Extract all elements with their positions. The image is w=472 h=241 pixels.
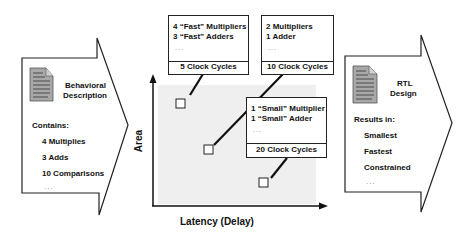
callout-line: 4 “Fast” Multipliers bbox=[173, 22, 246, 31]
y-axis-label: Area bbox=[134, 130, 144, 152]
x-axis-label: Latency (Delay) bbox=[180, 217, 254, 227]
callout-ellipsis: ... bbox=[175, 44, 184, 51]
callout-cycles: 20 Clock Cycles bbox=[247, 145, 326, 154]
input-item: 4 Multiplies bbox=[42, 138, 86, 146]
output-item: Constrained bbox=[364, 164, 411, 172]
input-title-line1: Behavioral bbox=[65, 82, 106, 90]
document-icon bbox=[30, 68, 53, 101]
design-point-medium bbox=[204, 145, 213, 154]
input-ellipsis: ... bbox=[44, 183, 54, 191]
callout-fast-design: 4 “Fast” Multipliers 3 “Fast” Adders ...… bbox=[168, 15, 249, 75]
output-results-label: Results in: bbox=[354, 116, 395, 124]
input-title-line2: Description bbox=[63, 92, 107, 100]
y-axis bbox=[150, 74, 157, 206]
callout-medium-design: 2 Multipliers 1 Adder ... 10 Clock Cycle… bbox=[261, 15, 334, 75]
callout-line: 2 Multipliers bbox=[266, 22, 313, 31]
output-title-line1: RTL bbox=[397, 80, 413, 88]
callout-line: 1 “Small” Adder bbox=[251, 114, 312, 123]
output-item: Smallest bbox=[364, 132, 397, 140]
callout-ellipsis: ... bbox=[268, 44, 277, 51]
callout-line: 1 “Small” Multiplier bbox=[251, 104, 325, 113]
callout-ellipsis: ... bbox=[253, 126, 262, 133]
input-contains-label: Contains: bbox=[32, 122, 69, 130]
callout-cycles: 5 Clock Cycles bbox=[169, 62, 248, 71]
output-item: Fastest bbox=[364, 148, 392, 156]
callout-line: 3 “Fast” Adders bbox=[173, 32, 234, 41]
output-title-line2: Design bbox=[390, 90, 417, 98]
callout-cycles: 10 Clock Cycles bbox=[262, 62, 333, 71]
design-point-small bbox=[259, 178, 268, 187]
design-point-fast bbox=[176, 99, 185, 108]
callout-small-design: 1 “Small” Multiplier 1 “Small” Adder ...… bbox=[246, 97, 327, 158]
document-icon bbox=[353, 66, 377, 103]
input-item: 10 Comparisons bbox=[42, 170, 104, 178]
output-ellipsis: ... bbox=[366, 178, 376, 186]
callout-line: 1 Adder bbox=[266, 32, 296, 41]
input-item: 3 Adds bbox=[42, 154, 68, 162]
